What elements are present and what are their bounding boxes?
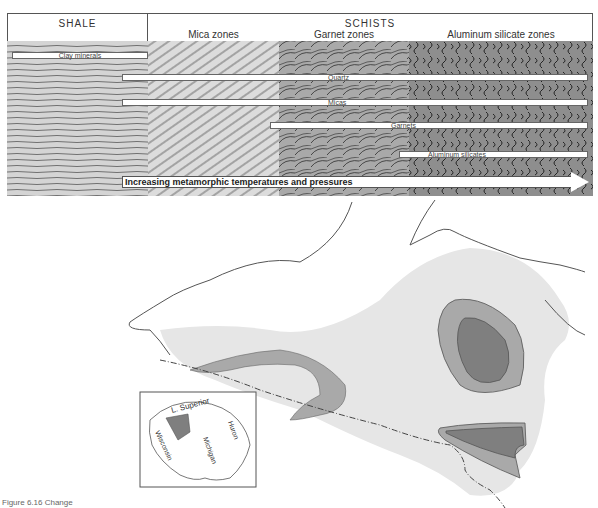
arrow-head-icon <box>571 172 589 192</box>
aluminum-silicate-zones-label: Aluminum silicate zones <box>409 29 593 40</box>
metamorphic-zone-diagram: SHALE SCHISTS Mica zones Garnet zones Al… <box>7 13 593 196</box>
aluminum-silicates-label: Aluminum silicates <box>428 152 486 158</box>
micas-bar: Micas <box>122 99 588 106</box>
geologic-map: L. Superior Wisconsin Michigan Huron <box>0 196 598 508</box>
figure-caption: Figure 6.16 Change <box>2 498 73 507</box>
clay-minerals-bar: Clay minerals <box>12 52 148 59</box>
metamorphic-gradient-arrow: Increasing metamorphic temperatures and … <box>122 176 572 188</box>
mica-zones-label: Mica zones <box>148 29 279 40</box>
garnet-zones-label: Garnet zones <box>279 29 409 40</box>
aluminum-silicates-bar: Aluminum silicates <box>399 151 588 158</box>
garnets-bar: Garnets <box>270 122 588 129</box>
shale-header: SHALE <box>7 13 148 41</box>
micas-label: Micas <box>328 100 346 106</box>
quartz-label: Quartz <box>328 75 349 81</box>
garnets-label: Garnets <box>391 123 416 129</box>
shale-header-text: SHALE <box>8 18 147 29</box>
schists-header-text: SCHISTS <box>148 18 592 29</box>
quartz-bar: Quartz <box>122 74 588 81</box>
